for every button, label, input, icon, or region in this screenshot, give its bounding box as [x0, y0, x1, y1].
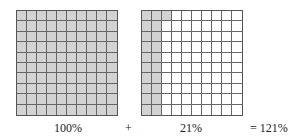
grid-cell	[202, 73, 212, 83]
grid-cell	[192, 63, 202, 73]
grid-cell	[37, 105, 47, 115]
grid-cell	[172, 105, 182, 115]
grid-cell	[77, 73, 87, 83]
grid-cell	[152, 42, 162, 52]
grid-cell	[142, 11, 152, 21]
grid-cell	[17, 105, 27, 115]
grid-cell	[87, 63, 97, 73]
grid-cell	[162, 32, 172, 42]
grid-cell	[57, 42, 67, 52]
grid-cell	[87, 73, 97, 83]
grid-cell	[162, 94, 172, 104]
grid-cell	[57, 105, 67, 115]
grid-cell	[232, 53, 242, 63]
grid-cell	[142, 73, 152, 83]
grid-cell	[27, 42, 37, 52]
grid-cell	[47, 84, 57, 94]
grid-cell	[222, 94, 232, 104]
grid-cell	[182, 63, 192, 73]
grid-cell	[222, 42, 232, 52]
grid-cell	[17, 53, 27, 63]
grid-cell	[222, 84, 232, 94]
grid-cell	[142, 21, 152, 31]
grid-cell	[172, 94, 182, 104]
grid-cell	[182, 73, 192, 83]
grid-cell	[212, 63, 222, 73]
grid-cell	[232, 94, 242, 104]
grid-cell	[142, 63, 152, 73]
grid-cell	[97, 21, 107, 31]
grid-cell	[162, 11, 172, 21]
grid-cell	[202, 63, 212, 73]
grid-cell	[202, 32, 212, 42]
grid-cell	[142, 84, 152, 94]
grid-cell	[27, 73, 37, 83]
grid-cell	[152, 105, 162, 115]
grid-cell	[192, 73, 202, 83]
grid-cell	[97, 42, 107, 52]
grid-cell	[87, 32, 97, 42]
grid-cell	[27, 53, 37, 63]
grid-cell	[232, 73, 242, 83]
grid-cell	[162, 105, 172, 115]
grid-cell	[192, 105, 202, 115]
grid-cell	[142, 32, 152, 42]
grid-cell	[172, 53, 182, 63]
label-100-percent: 100%	[54, 121, 82, 136]
grid-cell	[27, 21, 37, 31]
grid-cell	[87, 94, 97, 104]
grid-cell	[47, 42, 57, 52]
grid-cell	[182, 84, 192, 94]
grid-cell	[182, 21, 192, 31]
grid-cell	[232, 63, 242, 73]
grid-cell	[27, 84, 37, 94]
grid-cell	[182, 42, 192, 52]
grid-cell	[97, 105, 107, 115]
grid-cell	[97, 94, 107, 104]
grid-cell	[17, 94, 27, 104]
grid-cell	[57, 32, 67, 42]
grid-cell	[97, 32, 107, 42]
full-hundred-grid	[16, 10, 118, 116]
grid-cell	[77, 32, 87, 42]
result-121-percent: = 121%	[250, 121, 288, 136]
grid-cell	[192, 11, 202, 21]
grid-cell	[47, 32, 57, 42]
grid-cell	[107, 11, 117, 21]
grid-cell	[202, 105, 212, 115]
grid-cell	[152, 63, 162, 73]
grid-cell	[57, 21, 67, 31]
grid-cell	[67, 21, 77, 31]
grid-cell	[182, 32, 192, 42]
grid-cell	[222, 21, 232, 31]
grid-cell	[47, 11, 57, 21]
grid-cell	[222, 53, 232, 63]
grid-cell	[232, 105, 242, 115]
grid-cell	[162, 63, 172, 73]
grid-cell	[202, 21, 212, 31]
grid-cell	[142, 105, 152, 115]
grid-cell	[192, 53, 202, 63]
grid-cell	[162, 84, 172, 94]
grid-cell	[37, 53, 47, 63]
grid-cell	[212, 32, 222, 42]
grid-cell	[37, 42, 47, 52]
grid-cell	[182, 11, 192, 21]
grid-cell	[152, 84, 162, 94]
grid-cell	[152, 11, 162, 21]
grid-cell	[107, 53, 117, 63]
grid-cell	[17, 42, 27, 52]
grid-cell	[142, 94, 152, 104]
grid-cell	[212, 73, 222, 83]
grid-cell	[57, 53, 67, 63]
grid-cell	[57, 94, 67, 104]
grid-cell	[232, 21, 242, 31]
grid-cell	[57, 11, 67, 21]
grid-cell	[67, 53, 77, 63]
grid-cell	[162, 73, 172, 83]
grid-cell	[97, 63, 107, 73]
grid-cell	[232, 11, 242, 21]
grid-cell	[67, 11, 77, 21]
grid-cell	[162, 53, 172, 63]
grid-cell	[17, 21, 27, 31]
